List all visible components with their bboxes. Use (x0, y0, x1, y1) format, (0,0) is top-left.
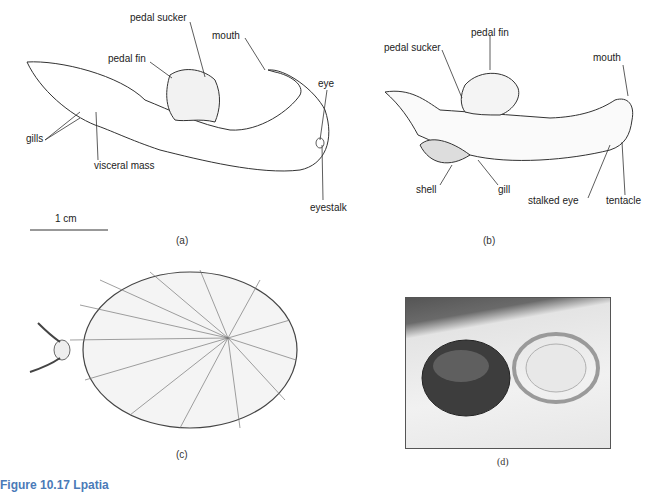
photo-limpet-and-scar (405, 297, 611, 449)
label-eye-a: eye (318, 78, 334, 89)
label-stalked-eye-b: stalked eye (528, 195, 579, 206)
caption-b: (b) (483, 235, 495, 246)
photo-content (406, 298, 610, 448)
panel-b-drawing (370, 0, 665, 250)
label-mouth-a: mouth (212, 30, 240, 41)
label-gills-a: gills (26, 133, 43, 144)
caption-a: (a) (176, 235, 188, 246)
scale-bar-label: 1 cm (55, 213, 77, 224)
label-mouth-b: mouth (593, 52, 621, 63)
label-tentacle-b: tentacle (606, 195, 641, 206)
panel-c-drawing (0, 260, 320, 460)
figure-title: Figure 10.17 Lpatia (0, 478, 109, 492)
label-pedal-fin-a: pedal fin (108, 53, 146, 64)
label-gill-b: gill (498, 184, 510, 195)
label-visceral-mass-a: visceral mass (94, 160, 155, 171)
label-eyestalk-a: eyestalk (310, 202, 347, 213)
label-pedal-sucker-b: pedal sucker (384, 42, 441, 53)
panel-a-drawing (0, 0, 340, 250)
caption-c: (c) (176, 449, 188, 460)
caption-d: (d) (497, 456, 509, 467)
label-pedal-sucker-a: pedal sucker (130, 12, 187, 23)
label-pedal-fin-b: pedal fin (471, 27, 509, 38)
label-shell-b: shell (416, 184, 437, 195)
